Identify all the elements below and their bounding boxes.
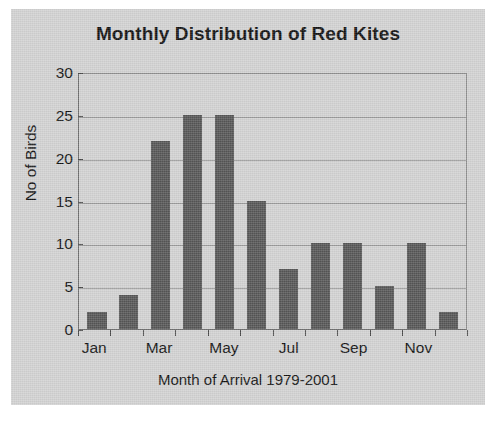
bar-slot	[400, 74, 432, 329]
y-axis-tick-label: 0	[13, 321, 73, 339]
bar-mar	[151, 141, 170, 329]
bar-slot	[113, 74, 145, 329]
x-axis-tick-label-mar: Mar	[124, 339, 194, 357]
x-axis-tick-label-jan: Jan	[59, 339, 129, 357]
bar-slot	[273, 74, 305, 329]
bar-slot	[336, 74, 368, 329]
x-axis-tick-mark	[175, 330, 176, 336]
x-axis-tick-mark	[402, 330, 403, 336]
y-axis-tick-labels: 051015202530	[11, 73, 73, 330]
x-axis-tick-mark	[273, 330, 274, 336]
bar-slot	[304, 74, 336, 329]
x-axis-tick-mark	[337, 330, 338, 336]
bar-may	[215, 115, 234, 329]
x-axis-tick-label-sep: Sep	[319, 339, 389, 357]
x-axis-tick-mark	[240, 330, 241, 336]
bar-slot	[368, 74, 400, 329]
bar-oct	[375, 286, 394, 329]
bar-slot	[241, 74, 273, 329]
bar-jan	[87, 312, 106, 329]
x-axis-tick-mark	[305, 330, 306, 336]
bar-sep	[343, 243, 362, 329]
bar-slot	[432, 74, 464, 329]
bar-slot	[209, 74, 241, 329]
x-axis-title: Month of Arrival 1979-2001	[11, 371, 485, 388]
bar-nov	[407, 243, 426, 329]
y-axis-tick-label: 10	[13, 235, 73, 253]
y-axis-tick-mark	[78, 330, 83, 331]
plot-area	[78, 73, 467, 330]
x-axis-tick-mark	[143, 330, 144, 336]
x-axis-tick-marks	[78, 330, 467, 337]
bar-slot	[145, 74, 177, 329]
bar-slot	[81, 74, 113, 329]
y-axis-tick-label: 20	[13, 150, 73, 168]
bar-jun	[247, 201, 266, 330]
y-axis-tick-label: 5	[13, 278, 73, 296]
x-axis-tick-mark	[467, 330, 468, 336]
x-axis-tick-label-jul: Jul	[254, 339, 324, 357]
chart-title: Monthly Distribution of Red Kites	[11, 23, 485, 45]
bar-series	[79, 74, 466, 329]
x-axis-tick-mark	[370, 330, 371, 336]
y-axis-tick-label: 25	[13, 107, 73, 125]
y-axis-tick-label: 15	[13, 193, 73, 211]
x-axis-tick-label-nov: Nov	[383, 339, 453, 357]
bar-feb	[119, 295, 138, 329]
x-axis-tick-mark	[110, 330, 111, 336]
y-axis-tick-label: 30	[13, 64, 73, 82]
bar-aug	[311, 243, 330, 329]
bar-dec	[439, 312, 458, 329]
bar-slot	[177, 74, 209, 329]
bar-jul	[279, 269, 298, 329]
x-axis-tick-mark	[208, 330, 209, 336]
bar-apr	[183, 115, 202, 329]
chart-figure: Monthly Distribution of Red Kites No of …	[11, 9, 485, 405]
x-axis-tick-labels: JanMarMayJulSepNov	[78, 339, 467, 363]
x-axis-tick-mark	[435, 330, 436, 336]
x-axis-tick-label-may: May	[189, 339, 259, 357]
